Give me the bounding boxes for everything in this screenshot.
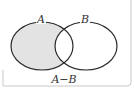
set-b-label: B	[80, 13, 89, 26]
venn-diagram: A B A−B	[0, 0, 134, 90]
set-a-label: A	[36, 13, 45, 26]
diagram-caption: A−B	[50, 73, 76, 86]
venn-diagram-figure: A B A−B	[0, 0, 134, 90]
